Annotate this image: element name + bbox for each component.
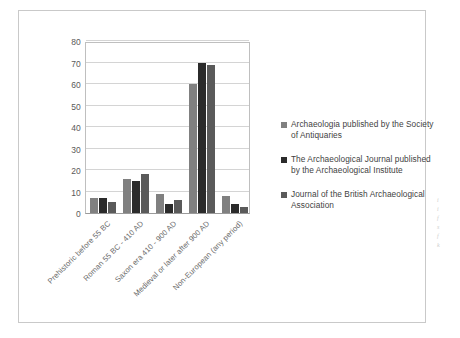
edge-mark: f <box>437 214 459 223</box>
bar[interactable] <box>198 63 206 214</box>
bar[interactable] <box>231 204 239 213</box>
y-axis: 01020304050607080 <box>57 42 81 214</box>
bar[interactable] <box>156 194 164 213</box>
bar[interactable] <box>123 179 131 213</box>
bar[interactable] <box>189 84 197 213</box>
bar[interactable] <box>108 202 116 213</box>
y-tick-label: 40 <box>71 123 81 133</box>
bars-layer <box>86 43 249 213</box>
x-tick-label: Non-European (any period) <box>171 219 244 292</box>
legend-label: The Archaeological Journal published by … <box>291 154 436 176</box>
legend-label: Archaeologia published by the Society of… <box>291 119 436 141</box>
chart-legend: Archaeologia published by the Society of… <box>281 119 436 224</box>
plot-area <box>85 42 250 214</box>
gridline <box>86 40 249 41</box>
y-tick-label: 0 <box>76 209 81 219</box>
bar-group <box>119 43 152 213</box>
edge-mark: i <box>437 196 459 205</box>
bar[interactable] <box>165 204 173 213</box>
bar-group <box>218 43 251 213</box>
chart-frame: 01020304050607080 Prehistoric before 55 … <box>18 10 426 323</box>
edge-mark: s <box>437 223 459 232</box>
y-tick-label: 70 <box>71 59 81 69</box>
legend-swatch-icon <box>281 192 287 198</box>
bar[interactable] <box>99 198 107 213</box>
legend-entry[interactable]: Journal of the British Archaeological As… <box>281 189 436 211</box>
legend-entry[interactable]: The Archaeological Journal published by … <box>281 154 436 176</box>
bar-group <box>185 43 218 213</box>
legend-swatch-icon <box>281 122 287 128</box>
legend-entry[interactable]: Archaeologia published by the Society of… <box>281 119 436 141</box>
bar[interactable] <box>222 196 230 213</box>
bar[interactable] <box>132 181 140 213</box>
legend-swatch-icon <box>281 157 287 163</box>
bar[interactable] <box>141 174 149 213</box>
edge-mark: f <box>437 232 459 241</box>
y-tick-label: 30 <box>71 145 81 155</box>
bar[interactable] <box>174 200 182 213</box>
y-tick-label: 60 <box>71 80 81 90</box>
bar[interactable] <box>240 207 248 213</box>
edge-mark: k <box>437 241 459 250</box>
x-tick-label: Saxon era 410 - 900 AD <box>113 219 178 284</box>
page-edge-marks: iifsfk <box>437 196 459 250</box>
y-tick-label: 10 <box>71 188 81 198</box>
y-tick-label: 80 <box>71 37 81 47</box>
y-tick-label: 50 <box>71 102 81 112</box>
bar-group <box>86 43 119 213</box>
edge-mark: i <box>437 205 459 214</box>
bar[interactable] <box>90 198 98 213</box>
y-tick-label: 20 <box>71 166 81 176</box>
figure-canvas: 01020304050607080 Prehistoric before 55 … <box>0 0 460 338</box>
legend-label: Journal of the British Archaeological As… <box>291 189 436 211</box>
x-tick-label: Prehistoric before 55 BC <box>45 219 112 286</box>
x-tick-label: Roman 55 BC - 410 AD <box>81 219 145 283</box>
bar-group <box>152 43 185 213</box>
bar[interactable] <box>207 65 215 213</box>
